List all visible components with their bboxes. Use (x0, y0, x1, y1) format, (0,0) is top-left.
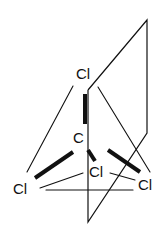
atom-center-cl: Cl (89, 163, 103, 180)
bond-c-left-cl (35, 152, 73, 178)
edge-left-to-center (40, 173, 83, 188)
edge-center-to-right (110, 173, 135, 180)
atom-left-cl: Cl (13, 180, 27, 197)
bond-c-center-cl (88, 150, 95, 161)
atom-top-cl: Cl (76, 65, 90, 82)
atom-right-cl: Cl (138, 176, 152, 193)
molecule-diagram: Cl C Cl Cl Cl (0, 0, 163, 241)
atom-carbon: C (73, 129, 84, 146)
